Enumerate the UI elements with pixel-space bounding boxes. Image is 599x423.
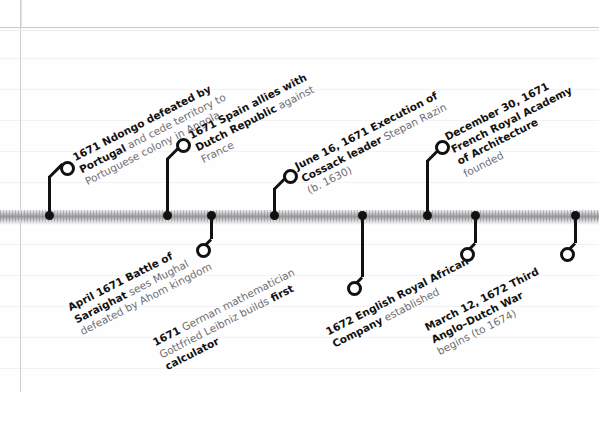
paper-rule (0, 58, 599, 59)
timeline-axis-shadow (0, 222, 599, 225)
connector-stem (361, 215, 364, 277)
connector-stem (574, 215, 577, 243)
timeline-axis (0, 210, 599, 222)
margin-rule-horizontal-secondary (0, 30, 599, 31)
margin-rule-vertical-secondary (21, 0, 22, 28)
event-circle[interactable] (176, 138, 191, 153)
event-circle[interactable] (347, 281, 362, 296)
event-label: December 30, 1671 French Royal Academy o… (443, 71, 587, 180)
paper-rule (0, 244, 599, 245)
connector-stem (426, 160, 429, 214)
event-circle[interactable] (60, 161, 75, 176)
timeline-page: 1671 Ndongo defeated by Portugal and ced… (0, 0, 599, 423)
page-corner (0, 0, 20, 27)
connector-stem (273, 188, 276, 214)
margin-rule-vertical (20, 0, 21, 392)
connector-stem (210, 215, 213, 239)
connector-stem (474, 215, 477, 243)
connector-stem (48, 176, 51, 214)
paper-rule (0, 337, 599, 338)
paper-rule (0, 368, 599, 369)
event-circle[interactable] (560, 247, 575, 262)
margin-rule-horizontal (0, 27, 599, 28)
event-circle[interactable] (283, 169, 298, 184)
paper-rule (0, 275, 599, 276)
connector-stem (166, 158, 169, 214)
